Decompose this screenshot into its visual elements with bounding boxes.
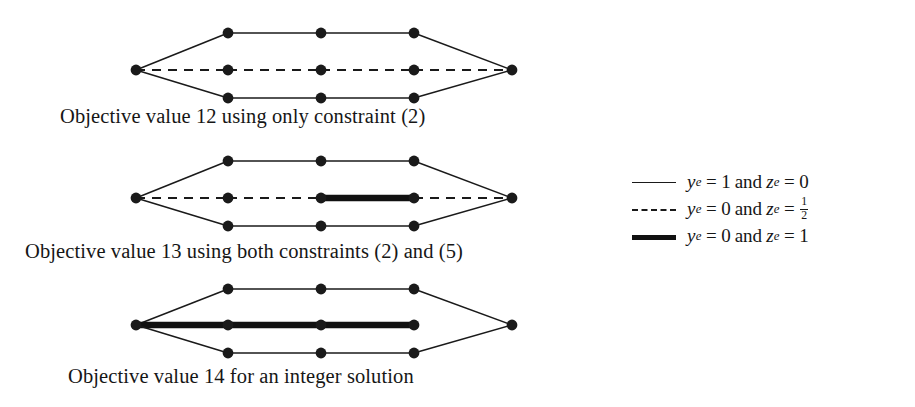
graph-node: [316, 28, 327, 39]
graph-node: [409, 28, 420, 39]
graph-edge-solid-thin: [136, 198, 228, 226]
figure-root: Objective value 12 using only constraint…: [0, 0, 915, 407]
graph-node: [409, 93, 420, 104]
math-subscript: e: [774, 228, 780, 244]
graph-node: [316, 320, 327, 331]
graph-edge-solid-thin: [136, 161, 228, 198]
fraction-denominator: 2: [800, 209, 808, 222]
graph-node: [131, 320, 142, 331]
graph-node: [409, 221, 420, 232]
legend: ye=1andze=0ye=0andze=12ye=0andze=1: [630, 168, 910, 249]
graph-node: [316, 348, 327, 359]
graph-node: [316, 156, 327, 167]
legend-label: ye=0andze=1: [687, 225, 809, 247]
conjunction-and: and: [735, 198, 762, 220]
graph-node: [409, 156, 420, 167]
math-variable: z: [766, 171, 773, 193]
math-subscript: e: [774, 174, 780, 190]
nodes-layer: [131, 28, 518, 359]
graph-node: [316, 193, 327, 204]
panel-2-caption: Objective value 13 using both constraint…: [25, 240, 463, 263]
graph-edge-solid-thin: [414, 198, 512, 226]
graph-node: [316, 284, 327, 295]
legend-line-sample-solid-thin-icon: [630, 174, 678, 190]
graph-node: [223, 28, 234, 39]
equals-sign: =: [706, 171, 717, 193]
graph-node: [316, 93, 327, 104]
graph-node: [131, 65, 142, 76]
panel-1-caption: Objective value 12 using only constraint…: [60, 105, 425, 128]
graph-edge-solid-thin: [136, 70, 228, 98]
graph-node: [507, 193, 518, 204]
math-value: 0: [721, 225, 731, 247]
legend-label: ye=1andze=0: [687, 171, 809, 193]
math-value: 0: [721, 198, 731, 220]
graph-node: [409, 65, 420, 76]
graph-edge-solid-thin: [414, 289, 512, 325]
fraction-numerator: 1: [800, 196, 808, 208]
legend-row-solid-thin: ye=1andze=0: [630, 168, 910, 195]
math-subscript: e: [774, 201, 780, 217]
math-subscript: e: [696, 228, 702, 244]
equals-sign: =: [784, 198, 795, 220]
legend-label: ye=0andze=12: [687, 196, 808, 221]
graph-node: [409, 348, 420, 359]
graph-node: [316, 221, 327, 232]
graph-node: [131, 193, 142, 204]
graph-edge-solid-thin: [414, 33, 512, 70]
graph-edge-solid-thin: [136, 289, 228, 325]
math-variable: y: [687, 225, 695, 247]
legend-row-solid-thick: ye=0andze=1: [630, 222, 910, 249]
math-variable: z: [766, 198, 773, 220]
graph-node: [507, 320, 518, 331]
math-value: 1: [721, 171, 731, 193]
graph-node: [409, 320, 420, 331]
graph-node: [223, 320, 234, 331]
equals-sign: =: [784, 225, 795, 247]
fraction-one-half: 12: [800, 196, 808, 221]
graph-node: [223, 193, 234, 204]
graph-node: [409, 284, 420, 295]
legend-line-sample-solid-thick-icon: [630, 228, 678, 244]
equals-sign: =: [706, 225, 717, 247]
graph-edge-solid-thin: [414, 70, 512, 98]
graph-edge-solid-thin: [136, 33, 228, 70]
math-variable: y: [687, 171, 695, 193]
legend-line-sample-dashed-icon: [630, 201, 678, 217]
legend-row-dashed: ye=0andze=12: [630, 195, 910, 222]
graph-node: [223, 348, 234, 359]
graph-edge-solid-thin: [136, 325, 228, 353]
math-subscript: e: [696, 174, 702, 190]
math-variable: z: [766, 225, 773, 247]
graph-node: [223, 156, 234, 167]
graph-node: [223, 284, 234, 295]
equals-sign: =: [706, 198, 717, 220]
graph-node: [223, 65, 234, 76]
graph-edge-solid-thin: [414, 325, 512, 353]
graph-node: [409, 193, 420, 204]
math-variable: y: [687, 198, 695, 220]
graph-node: [507, 65, 518, 76]
graph-node: [316, 65, 327, 76]
edges-layer: [136, 33, 512, 353]
graph-node: [223, 93, 234, 104]
math-value: 0: [799, 171, 809, 193]
conjunction-and: and: [735, 225, 762, 247]
math-value: 1: [799, 225, 809, 247]
math-subscript: e: [696, 201, 702, 217]
graph-edge-solid-thin: [414, 161, 512, 198]
equals-sign: =: [784, 171, 795, 193]
conjunction-and: and: [735, 171, 762, 193]
panel-3-caption: Objective value 14 for an integer soluti…: [68, 365, 414, 388]
graph-node: [223, 221, 234, 232]
